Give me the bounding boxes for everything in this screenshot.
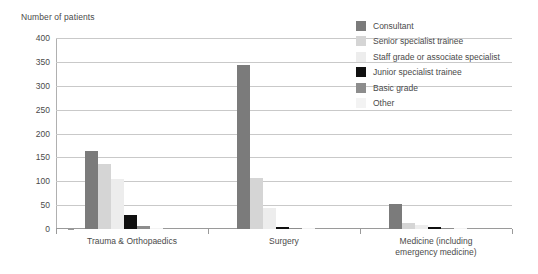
- y-axis-tick-label: 100: [36, 176, 50, 186]
- bar: [250, 178, 263, 229]
- y-axis-title: Number of patients: [21, 12, 95, 22]
- legend-item[interactable]: Staff grade or associate specialist: [356, 49, 538, 65]
- y-axis-tick-mark: [68, 229, 74, 230]
- legend-swatch-icon: [356, 21, 366, 31]
- category-separator: [56, 229, 57, 234]
- bar: [415, 225, 428, 229]
- y-axis-tick-label: 350: [36, 57, 50, 67]
- legend-item[interactable]: Junior specialist trainee: [356, 65, 538, 81]
- chart-root: Number of patients 050100150200250300350…: [0, 0, 538, 274]
- bar: [441, 228, 454, 229]
- bar-group: [208, 38, 360, 229]
- chart-legend: ConsultantSenior specialist traineeStaff…: [356, 18, 538, 111]
- legend-item[interactable]: Basic grade: [356, 80, 538, 96]
- y-axis-tick-label: 300: [36, 81, 50, 91]
- category-label: Surgery: [208, 236, 360, 247]
- bar: [137, 226, 150, 229]
- legend-label: Junior specialist trainee: [373, 67, 462, 77]
- category-separator: [360, 229, 361, 234]
- category-label: Medicine (including emergency medicine): [360, 236, 512, 258]
- category-label: Trauma & Orthopaedics: [56, 236, 208, 247]
- bar-group: [56, 38, 208, 229]
- bar: [302, 228, 315, 229]
- category-separator: [512, 229, 513, 234]
- legend-label: Senior specialist trainee: [373, 36, 463, 46]
- y-axis-tick-label: 150: [36, 152, 50, 162]
- legend-label: Basic grade: [373, 83, 418, 93]
- bar: [276, 227, 289, 229]
- bar: [402, 223, 415, 229]
- legend-swatch-icon: [356, 67, 366, 77]
- legend-label: Consultant: [373, 21, 414, 31]
- legend-item[interactable]: Senior specialist trainee: [356, 34, 538, 50]
- y-axis-tick-label: 400: [36, 33, 50, 43]
- bar-set: [237, 38, 315, 229]
- y-axis-tick-label: 50: [41, 200, 50, 210]
- legend-swatch-icon: [356, 98, 366, 108]
- bar: [124, 215, 137, 229]
- legend-swatch-icon: [356, 83, 366, 93]
- legend-label: Staff grade or associate specialist: [373, 52, 500, 62]
- y-axis-tick-label: 250: [36, 105, 50, 115]
- y-axis-tick-label: 200: [36, 129, 50, 139]
- y-axis-tick-labels: 050100150200250300350400: [18, 38, 50, 229]
- bar: [289, 228, 302, 229]
- bar: [98, 164, 111, 229]
- legend-label: Other: [373, 98, 394, 108]
- legend-swatch-icon: [356, 36, 366, 46]
- bar: [150, 228, 163, 229]
- bar: [454, 228, 467, 229]
- bar: [389, 204, 402, 229]
- bar: [111, 179, 124, 229]
- legend-swatch-icon: [356, 52, 366, 62]
- bar: [263, 208, 276, 229]
- y-axis-tick-label: 0: [45, 224, 50, 234]
- bar: [85, 151, 98, 229]
- category-separator: [208, 229, 209, 234]
- bar: [237, 65, 250, 229]
- legend-item[interactable]: Other: [356, 96, 538, 112]
- legend-item[interactable]: Consultant: [356, 18, 538, 34]
- bar: [428, 227, 441, 229]
- bar-set: [85, 38, 163, 229]
